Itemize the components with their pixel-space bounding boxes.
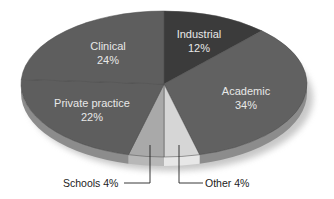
academic-pct: 34% bbox=[235, 99, 257, 111]
clinical-name: Clinical bbox=[90, 40, 125, 52]
pie-slices bbox=[21, 11, 307, 157]
industrial-name: Industrial bbox=[177, 28, 222, 40]
academic-name: Academic bbox=[222, 85, 271, 97]
industrial-pct: 12% bbox=[188, 42, 210, 54]
private-practice-name: Private practice bbox=[54, 97, 130, 109]
clinical-pct: 24% bbox=[97, 54, 119, 66]
schools-callout-text: Schools 4% bbox=[63, 177, 118, 189]
pie-chart: Industrial 12% Academic 34% Clinical 24%… bbox=[0, 0, 334, 199]
other-callout-text: Other 4% bbox=[205, 177, 249, 189]
private-practice-pct: 22% bbox=[81, 111, 103, 123]
